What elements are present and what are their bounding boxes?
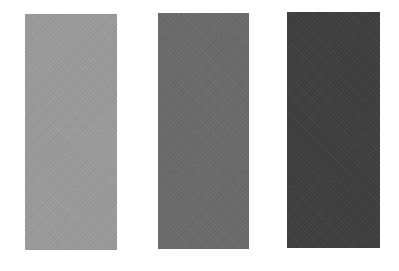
dark-gray-swatch xyxy=(287,12,380,248)
medium-gray-swatch xyxy=(158,13,249,249)
light-gray-swatch xyxy=(25,14,117,250)
